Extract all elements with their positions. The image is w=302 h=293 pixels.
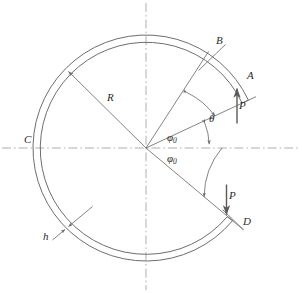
angle-arc-phi-lower [204, 148, 222, 197]
label-angle-phi-upper: φ0 [167, 132, 177, 143]
label-point-d: D [243, 216, 251, 227]
thickness-dimension [53, 207, 93, 241]
label-point-b: B [216, 35, 223, 46]
diagram-canvas [0, 0, 302, 293]
label-angle-theta: θ [209, 113, 214, 124]
label-point-a: A [247, 70, 254, 81]
angle-arc-theta [205, 123, 209, 144]
thickness-leader-inner [53, 230, 66, 241]
label-force-upper-p: P [239, 100, 246, 111]
phi-lower-subscript: 0 [173, 157, 177, 166]
radial-lines [146, 51, 256, 229]
label-angle-phi-lower: φ0 [167, 153, 177, 164]
centerlines [2, 3, 300, 290]
leader-line-b [199, 45, 226, 71]
phi-upper-subscript: 0 [173, 136, 177, 145]
leader-line-d [223, 210, 244, 230]
label-force-lower-p: P [229, 190, 236, 201]
label-radius-r: R [107, 92, 114, 103]
label-thickness-h: h [43, 231, 49, 242]
ring-force-diagram: R h C B A D P P θ φ0 φ0 [0, 0, 302, 293]
radius-dimension-arrow [69, 72, 147, 149]
thickness-leader-outer [69, 207, 93, 227]
label-point-c: C [24, 134, 31, 145]
